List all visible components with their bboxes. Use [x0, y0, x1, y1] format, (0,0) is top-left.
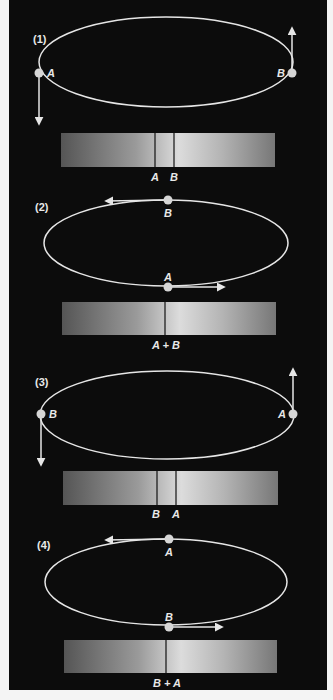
- star-b: [164, 196, 173, 205]
- velocity-arrow-left: [106, 539, 169, 540]
- panel-label: (1): [33, 33, 47, 45]
- spectrum-bar: [61, 133, 275, 167]
- line-label: B: [152, 508, 160, 520]
- star-b: [288, 69, 297, 78]
- star-a: [165, 535, 174, 544]
- spectrum-bar: [63, 471, 278, 505]
- panel-1: (1) A B A B: [33, 17, 297, 183]
- line-label: B: [170, 171, 178, 183]
- spectrum-bar: [62, 302, 276, 335]
- line-label: A: [171, 508, 180, 520]
- star-label: A: [163, 271, 172, 283]
- line-label: A + B: [151, 339, 180, 351]
- star-label: B: [49, 408, 57, 420]
- star-label: B: [277, 67, 285, 79]
- panel-label: (3): [35, 376, 49, 388]
- star-label: A: [277, 408, 286, 420]
- star-a: [164, 283, 173, 292]
- panel-2: (2) B A A + B: [35, 196, 288, 352]
- star-b: [165, 623, 174, 632]
- panel-3: (3) B A B A: [35, 369, 298, 520]
- orbit-ellipse: [39, 17, 293, 107]
- star-label: A: [164, 546, 173, 558]
- binary-star-diagram: (1) A B A B (2) B A A + B (3) B A: [0, 0, 333, 700]
- panel-label: (2): [35, 201, 49, 213]
- star-label: A: [46, 67, 55, 79]
- star-a: [35, 69, 44, 78]
- panel-label: (4): [37, 539, 51, 551]
- line-label: B + A: [153, 677, 181, 689]
- panel-4: (4) A B B + A: [37, 535, 287, 690]
- star-label: B: [164, 207, 172, 219]
- orbit-ellipse: [40, 371, 294, 459]
- line-label: A: [150, 171, 159, 183]
- spectrum-bar: [64, 640, 277, 673]
- velocity-arrow-left: [106, 200, 168, 201]
- star-b: [37, 410, 46, 419]
- star-label: B: [165, 611, 173, 623]
- star-a: [289, 410, 298, 419]
